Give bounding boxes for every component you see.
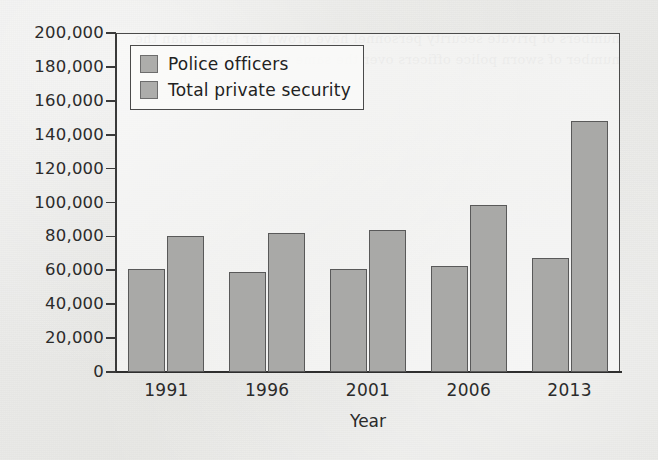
- y-axis-tick-mark: [106, 66, 116, 68]
- y-axis-tick-label: 100,000: [8, 193, 104, 212]
- y-axis-tick-mark: [106, 168, 116, 170]
- y-axis-tick-label-wrap: 0: [0, 362, 104, 382]
- y-axis-tick-label: 20,000: [8, 328, 104, 347]
- bar-police-officers-1991: [128, 269, 165, 372]
- y-axis-tick-label-wrap: 200,000: [0, 23, 104, 43]
- x-axis-label-2001: 2001: [323, 380, 413, 400]
- y-axis-tick-label: 60,000: [8, 260, 104, 279]
- y-axis-tick-label: 120,000: [8, 159, 104, 178]
- y-axis-tick-label: 40,000: [8, 294, 104, 313]
- y-axis-tick-label-wrap: 80,000: [0, 226, 104, 246]
- chart-legend: Police officers Total private security: [130, 45, 364, 110]
- x-axis-label-2013: 2013: [525, 380, 615, 400]
- y-axis-tick-label-wrap: 140,000: [0, 125, 104, 145]
- y-axis-tick-label: 200,000: [8, 23, 104, 42]
- x-axis-title: Year: [116, 411, 620, 431]
- legend-swatch-icon: [140, 81, 158, 99]
- bar-police-officers-2013: [532, 258, 569, 372]
- y-axis-tick-label-wrap: 100,000: [0, 193, 104, 213]
- y-axis-tick-mark: [106, 134, 116, 136]
- y-axis-tick-mark: [106, 202, 116, 204]
- y-axis-tick-label: 180,000: [8, 57, 104, 76]
- legend-label: Police officers: [168, 54, 288, 74]
- bar-police-officers-2006: [431, 266, 468, 372]
- chart-page: numbers of private security personnel ha…: [0, 0, 658, 460]
- bar-police-officers-2001: [330, 269, 367, 372]
- x-axis-label-1991: 1991: [121, 380, 211, 400]
- legend-label: Total private security: [168, 80, 351, 100]
- y-axis-tick-mark: [106, 269, 116, 271]
- bar-police-officers-1996: [229, 272, 266, 372]
- y-axis-tick-label: 80,000: [8, 226, 104, 245]
- y-axis-tick-label-wrap: 40,000: [0, 294, 104, 314]
- y-axis-tick-mark: [106, 303, 116, 305]
- y-axis-tick-label-wrap: 180,000: [0, 57, 104, 77]
- bar-total-private-security-2006: [470, 205, 507, 372]
- y-axis-tick-label-wrap: 60,000: [0, 260, 104, 280]
- y-axis-tick-label: 140,000: [8, 125, 104, 144]
- x-axis-label-1996: 1996: [222, 380, 312, 400]
- y-axis-tick-mark: [106, 100, 116, 102]
- y-axis-tick-label: 0: [8, 362, 104, 381]
- bar-total-private-security-1996: [268, 233, 305, 372]
- legend-item-police-officers: Police officers: [140, 51, 351, 77]
- legend-item-total-private-security: Total private security: [140, 77, 351, 103]
- y-axis-tick-mark: [106, 32, 116, 34]
- legend-swatch-icon: [140, 55, 158, 73]
- x-axis-label-2006: 2006: [424, 380, 514, 400]
- y-axis-tick-mark: [106, 371, 116, 373]
- y-axis-tick-label: 160,000: [8, 91, 104, 110]
- bar-total-private-security-2001: [369, 230, 406, 372]
- bar-total-private-security-1991: [167, 236, 204, 372]
- y-axis-tick-mark: [106, 337, 116, 339]
- y-axis-tick-mark: [106, 236, 116, 238]
- bar-total-private-security-2013: [571, 121, 608, 372]
- grouped-bar-chart: 020,00040,00060,00080,000100,000120,0001…: [0, 0, 658, 460]
- y-axis-tick-label-wrap: 20,000: [0, 328, 104, 348]
- y-axis-tick-label-wrap: 120,000: [0, 159, 104, 179]
- y-axis-tick-label-wrap: 160,000: [0, 91, 104, 111]
